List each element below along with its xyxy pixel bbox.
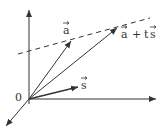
svg-text:a: a (121, 28, 128, 41)
origin-label: 0 (15, 91, 22, 104)
label-a: a (63, 22, 70, 38)
svg-text:t: t (144, 28, 149, 41)
dashed-line (18, 18, 150, 54)
svg-text:+: + (132, 28, 141, 41)
label-s: s (81, 77, 87, 93)
svg-text:a: a (63, 24, 70, 37)
vector-line-diagram: 0 a s a + t s (0, 0, 165, 136)
label-a-plus-ts: a + t s (121, 26, 156, 42)
svg-text:s: s (81, 79, 87, 92)
svg-text:s: s (150, 28, 156, 41)
